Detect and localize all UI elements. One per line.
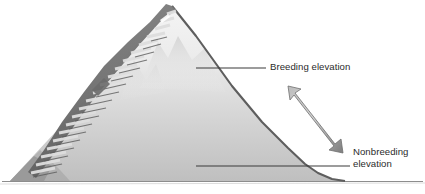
elevation-range-double-arrow: [288, 86, 343, 153]
breeding-elevation-label: Breeding elevation: [270, 61, 350, 73]
mountain-elevation-figure: Breeding elevation Nonbreeding elevation: [0, 0, 425, 194]
nonbreeding-label-line-1: Nonbreeding: [353, 146, 409, 157]
ground-line: [0, 182, 425, 185]
nonbreeding-elevation-label: Nonbreeding elevation: [353, 146, 423, 169]
nonbreeding-label-line-2: elevation: [353, 158, 392, 169]
